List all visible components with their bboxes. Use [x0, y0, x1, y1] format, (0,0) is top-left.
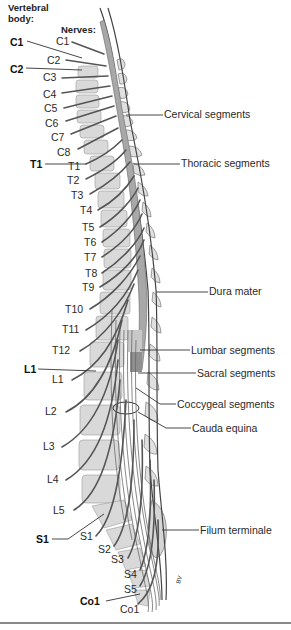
nerve-label-t4: T4 — [80, 204, 92, 216]
label-lumbar-segments: Lumbar segments — [191, 344, 275, 356]
nerve-label-s2: S2 — [98, 543, 111, 555]
nerve-label-l3: L3 — [43, 440, 55, 452]
nerve-label-s5: S5 — [124, 583, 137, 595]
vertebra-label-s1: S1 — [36, 533, 49, 545]
label-cauda-equina: Cauda equina — [192, 422, 257, 434]
nerves-header: Nerves: — [61, 24, 96, 35]
nerve-label-c3: C3 — [43, 71, 56, 83]
vertebra-label-c1: C1 — [10, 36, 23, 48]
vertebra-label-co1: Co1 — [80, 595, 100, 607]
nerve-label-c6: C6 — [45, 117, 58, 129]
right-leader-lines — [126, 115, 208, 530]
nerve-label-t10: T10 — [65, 303, 83, 315]
nerve-label-t11: T11 — [62, 323, 79, 335]
vertebral-body-header-line2: body: — [8, 13, 49, 24]
nerve-label-l2: L2 — [45, 405, 57, 417]
nerve-label-t2: T2 — [67, 174, 79, 186]
nerve-label-c4: C4 — [43, 88, 56, 100]
nerve-label-s3: S3 — [111, 553, 124, 565]
vertebral-body-header-line1: Vertebral — [8, 2, 49, 13]
nerve-label-c8: C8 — [57, 146, 70, 158]
vertebral-body-header: Vertebral body: — [8, 2, 49, 24]
nerve-label-co1: Co1 — [120, 603, 139, 615]
label-sacral-segments: Sacral segments — [197, 367, 275, 379]
nerve-label-l4: L4 — [47, 473, 59, 485]
nerve-label-c7: C7 — [51, 131, 64, 143]
label-thoracic-segments: Thoracic segments — [181, 157, 270, 169]
nerve-label-t5: T5 — [82, 221, 94, 233]
label-cervical-segments: Cervical segments — [164, 108, 250, 120]
nerve-label-c1: C1 — [56, 35, 69, 47]
nerve-label-t7: T7 — [84, 251, 96, 263]
vertebra-label-t1: T1 — [30, 158, 42, 170]
nerve-label-l1: L1 — [52, 373, 64, 385]
nerve-label-t12: T12 — [52, 344, 70, 356]
vertebra-label-c2: C2 — [10, 63, 23, 75]
artist-mark: BV — [175, 575, 183, 584]
label-filum-terminale: Filum terminale — [200, 524, 272, 536]
vertebra-label-l1: L1 — [24, 363, 36, 375]
bottom-divider — [0, 622, 291, 624]
nerve-label-t9: T9 — [82, 281, 94, 293]
nerve-label-c2: C2 — [47, 54, 60, 66]
nerve-label-s4: S4 — [124, 568, 137, 580]
nerve-label-t6: T6 — [84, 236, 96, 248]
nerve-label-t3: T3 — [71, 189, 83, 201]
label-dura-mater: Dura mater — [209, 285, 262, 297]
nerve-label-t1: T1 — [68, 160, 80, 172]
nerve-label-l5: L5 — [53, 504, 65, 516]
label-coccygeal-segments: Coccygeal segments — [177, 398, 274, 410]
nerve-label-c5: C5 — [44, 102, 57, 114]
nerve-label-t8: T8 — [85, 267, 97, 279]
nerve-label-s1: S1 — [80, 530, 93, 542]
